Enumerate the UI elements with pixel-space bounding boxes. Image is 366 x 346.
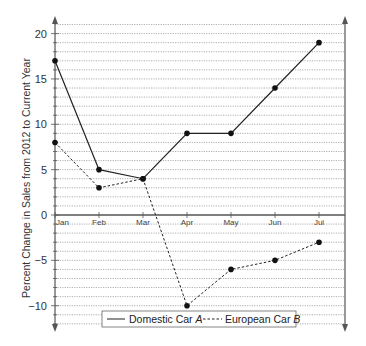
arrow-down-icon — [52, 324, 58, 332]
data-point-marker — [184, 303, 190, 309]
data-point-marker — [272, 85, 278, 91]
data-point-marker — [228, 267, 234, 273]
y-tick-label: −5 — [34, 254, 47, 266]
data-point-marker — [52, 140, 58, 146]
data-point-marker — [228, 131, 234, 137]
legend: Domestic Car AEuropean Car B — [102, 311, 300, 327]
grid-lines — [55, 25, 345, 324]
x-tick-label: Jul — [314, 218, 324, 227]
y-tick-label: 15 — [35, 73, 47, 85]
x-tick-label: Jan — [56, 218, 69, 227]
data-point-marker — [140, 176, 146, 182]
legend-label: Domestic Car A — [129, 313, 203, 325]
series-domestic-car-a — [55, 43, 319, 179]
y-tick-label: 0 — [41, 209, 47, 221]
x-axis-ticks: JanFebMarAprMayJunJul — [55, 212, 324, 227]
data-point-marker — [96, 167, 102, 173]
axes — [52, 16, 348, 332]
data-point-marker — [52, 58, 58, 64]
y-axis-ticks: 20151050−5−10 — [28, 28, 59, 324]
arrow-down-icon — [342, 324, 348, 332]
data-point-marker — [316, 239, 322, 245]
y-tick-label: 10 — [35, 118, 47, 130]
y-axis-title: Percent Change in Sales from 2012 to Cur… — [20, 58, 32, 298]
x-tick-label: May — [223, 218, 238, 227]
data-point-marker — [272, 258, 278, 264]
data-point-marker — [96, 185, 102, 191]
x-tick-label: Feb — [92, 218, 106, 227]
data-point-marker — [184, 131, 190, 137]
data-series — [52, 40, 322, 309]
data-point-marker — [316, 40, 322, 46]
y-tick-label: −10 — [28, 300, 47, 312]
y-tick-label: 5 — [41, 164, 47, 176]
arrow-up-icon — [52, 16, 58, 24]
legend-label: European Car B — [225, 313, 300, 325]
x-tick-label: Apr — [181, 218, 194, 227]
y-tick-label: 20 — [35, 28, 47, 40]
x-tick-label: Jun — [269, 218, 282, 227]
arrow-up-icon — [342, 16, 348, 24]
x-tick-label: Mar — [136, 218, 150, 227]
line-chart: 20151050−5−10 JanFebMarAprMayJunJul Perc… — [0, 0, 366, 346]
